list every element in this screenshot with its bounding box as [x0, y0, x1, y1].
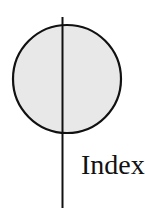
- index-circle: [13, 25, 121, 133]
- index-diagram: Index: [0, 0, 145, 211]
- index-label: Index: [81, 149, 145, 180]
